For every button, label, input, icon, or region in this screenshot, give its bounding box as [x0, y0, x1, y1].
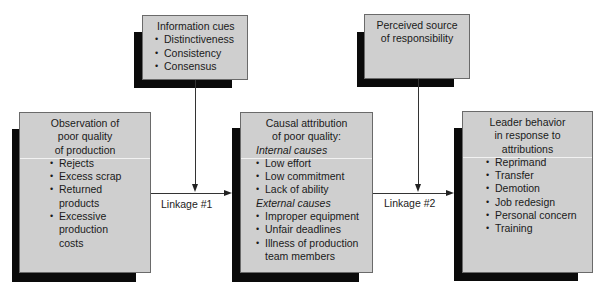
list-item: Reprimand: [486, 156, 592, 169]
observation-box: Observation of poor quality of productio…: [19, 112, 151, 273]
perceived-source-title-1: Perceived source: [365, 19, 469, 32]
causal-attribution-box: Causal attribution of poor quality: Inte…: [240, 112, 373, 273]
list-item: Distinctiveness: [155, 33, 247, 46]
causal-title-1: Causal attribution: [241, 117, 372, 130]
observation-title-2: poor quality: [20, 130, 150, 143]
list-item: Returned products: [50, 183, 109, 210]
info-cues-list: Distinctiveness Consistency Consensus: [155, 33, 247, 73]
list-item: Demotion: [486, 182, 592, 195]
perceived-source-box: Perceived source of responsibility: [364, 14, 470, 79]
list-item: Personal concern: [486, 209, 592, 222]
list-item: Training: [486, 222, 592, 235]
internal-causes-heading: Internal causes: [256, 144, 372, 157]
leader-title-3: attributions: [463, 143, 592, 156]
causal-title-2: of poor quality:: [241, 130, 372, 143]
leader-title-2: in response to: [463, 129, 592, 142]
linkage-2-arrow-line: [373, 193, 447, 194]
external-causes-heading: External causes: [256, 197, 372, 210]
leader-title-1: Leader behavior: [463, 116, 592, 129]
info-cues-connector-line: [195, 80, 196, 185]
list-item: Low commitment: [256, 170, 372, 183]
list-item: Transfer: [486, 169, 592, 182]
info-cues-arrowhead-icon: [192, 184, 198, 192]
observation-list: Rejects Excess scrap Returned products E…: [20, 157, 150, 250]
list-item: Lack of ability: [256, 183, 372, 196]
leader-behavior-list: Reprimand Transfer Demotion Job redesign…: [463, 156, 592, 236]
linkage-2-label: Linkage #2: [384, 197, 435, 209]
list-item: Improper equipment: [256, 210, 372, 223]
list-item: Rejects: [50, 157, 138, 170]
perceived-source-arrowhead-icon: [415, 184, 421, 192]
list-item: Excessive production costs: [50, 210, 111, 250]
list-item: Consistency: [155, 47, 247, 60]
perceived-source-title-2: of responsibility: [365, 32, 469, 45]
linkage-2-arrowhead-icon: [446, 190, 454, 196]
linkage-1-arrowhead-icon: [224, 190, 232, 196]
observation-title-1: Observation of: [20, 117, 150, 130]
list-item: Illness of production team members: [256, 237, 365, 264]
linkage-1-arrow-line: [151, 193, 225, 194]
list-item: Unfair deadlines: [256, 223, 372, 236]
leader-behavior-box: Leader behavior in response to attributi…: [462, 111, 593, 273]
linkage-1-label: Linkage #1: [161, 198, 212, 210]
list-item: Consensus: [155, 60, 247, 73]
external-causes-list: Improper equipment Unfair deadlines Illn…: [256, 210, 372, 263]
info-cues-title: Information cues: [155, 20, 247, 33]
list-item: Excess scrap: [50, 170, 138, 183]
internal-causes-list: Low effort Low commitment Lack of abilit…: [256, 157, 372, 197]
list-item: Job redesign: [486, 196, 592, 209]
info-cues-box: Information cues Distinctiveness Consist…: [142, 15, 248, 80]
list-item: Low effort: [256, 157, 372, 170]
observation-title-3: of production: [20, 144, 150, 157]
perceived-source-connector-line: [418, 79, 419, 185]
